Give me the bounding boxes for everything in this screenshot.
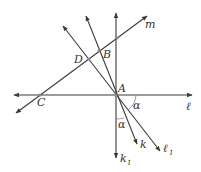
label-line-k: k: [140, 138, 147, 151]
point-b: [97, 49, 100, 52]
line-k: [86, 16, 137, 144]
label-alpha-2: α: [118, 118, 126, 131]
line-l1: [63, 26, 160, 151]
label-line-l1: ℓ: [163, 142, 168, 155]
label-line-k1-sub: 1: [127, 159, 131, 167]
label-line-l1-sub: 1: [169, 149, 173, 157]
label-d: D: [73, 53, 83, 66]
label-b: B: [102, 48, 111, 61]
label-line-k1: k: [120, 152, 127, 165]
label-alpha-1: α: [133, 99, 141, 112]
label-c: C: [37, 96, 46, 109]
diagram-canvas: A B C D m ℓ k ℓ 1 k 1 α α: [0, 0, 201, 172]
point-m-k1-intersection: [115, 36, 118, 39]
label-a: A: [117, 82, 126, 95]
point-d: [87, 57, 90, 60]
geometry-diagram: A B C D m ℓ k ℓ 1 k 1 α α: [0, 0, 201, 172]
label-line-l: ℓ: [186, 100, 191, 113]
label-line-m: m: [145, 18, 155, 31]
